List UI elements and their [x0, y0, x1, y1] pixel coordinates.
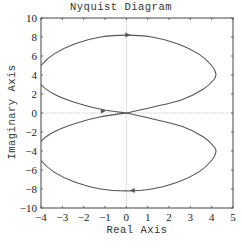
y-tick-label: 8 — [32, 31, 38, 43]
x-tick-label: −3 — [56, 211, 68, 223]
y-tick-label: 6 — [32, 50, 38, 62]
y-tick-label: −4 — [25, 145, 37, 157]
y-tick-label: 0 — [32, 107, 38, 119]
x-tick-label: 2 — [166, 211, 172, 223]
y-tick-label: −8 — [25, 183, 37, 195]
direction-arrow-icon — [130, 188, 135, 193]
y-tick-label: −6 — [25, 164, 37, 176]
x-tick-label: 3 — [188, 211, 194, 223]
nyquist-plot: −4−3−2−1012345−10−8−6−4−20246810 — [0, 0, 242, 249]
x-tick-label: 5 — [230, 211, 236, 223]
y-tick-label: −10 — [20, 202, 38, 214]
y-tick-label: −2 — [25, 126, 37, 138]
x-tick-label: 4 — [209, 211, 215, 223]
y-tick-label: 4 — [32, 69, 38, 81]
x-tick-label: 1 — [145, 211, 151, 223]
x-tick-label: −2 — [78, 211, 90, 223]
y-tick-label: 2 — [32, 88, 38, 100]
direction-arrow-icon — [125, 33, 130, 38]
y-tick-label: 10 — [26, 12, 38, 24]
x-tick-label: −1 — [99, 211, 111, 223]
x-tick-label: 0 — [124, 211, 130, 223]
